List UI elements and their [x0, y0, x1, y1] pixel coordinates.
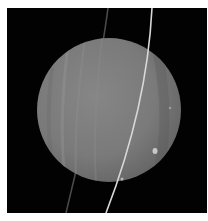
bright-spot-lower [121, 178, 124, 181]
bright-spot-small [169, 107, 171, 109]
planet-scene [7, 8, 207, 213]
bright-spot [153, 148, 158, 154]
space-background [7, 8, 207, 213]
